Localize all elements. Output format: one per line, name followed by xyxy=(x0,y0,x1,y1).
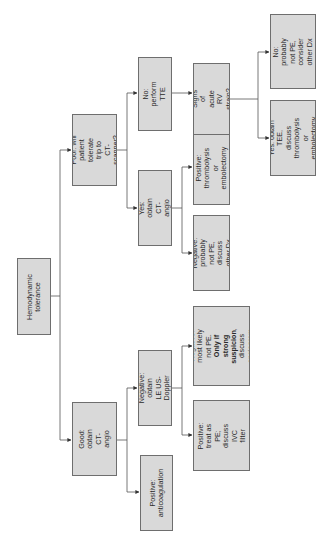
node-label: Negative: most likely not PE. Only if st… xyxy=(193,328,250,364)
node-label: No: probably not PE, consider other Dx xyxy=(272,38,314,66)
node-positive-anticoagulation: Positive: anticoagulation xyxy=(140,455,173,531)
node-label: Positive: treat as PE; discuss IVC filte… xyxy=(196,422,246,450)
node-rv-yes: Yes: obtain TEE, discuss thrombolysis or… xyxy=(270,100,316,176)
node-positive-thrombolysis: Positive: thrombolysis or embolectomy xyxy=(193,130,230,205)
node-no-perform-tte: No: perform TTE xyxy=(138,57,172,131)
node-label: Negative: probably not PE, discuss other… xyxy=(193,238,230,268)
node-negative-le-us-doppler: Negative: obtain LE US-Doppler xyxy=(138,350,172,426)
label-emphasis: Only if strong suspicion xyxy=(212,330,238,364)
node-rv-no: No: probably not PE, consider other Dx xyxy=(270,14,316,89)
node-poor-tolerance: Poor: will patient tolerate trip to CT- … xyxy=(72,114,117,186)
node-label: Negative: obtain LE US-Doppler xyxy=(138,373,172,403)
node-yes-obtain-ct-angio: Yes: obtain CT- angio xyxy=(138,170,172,246)
label-part: Negative: most likely not PE. xyxy=(193,329,213,363)
node-rv-strain: Signs of acute RV strain? xyxy=(193,63,230,135)
node-doppler-positive: Positive: treat as PE; discuss IVC filte… xyxy=(193,400,250,471)
node-label: Yes: obtain TEE, discuss thrombolysis or… xyxy=(270,117,316,160)
node-doppler-negative: Negative: most likely not PE. Only if st… xyxy=(193,306,250,386)
node-label: Yes: obtain CT- angio xyxy=(138,198,172,218)
node-label: No: perform TTE xyxy=(142,82,167,107)
node-negative-probably-not-pe: Negative: probably not PE, discuss other… xyxy=(193,215,230,291)
node-label: Positive: thrombolysis or embolectomy xyxy=(195,146,229,189)
node-good-tolerance: Good: obtain CT-angio xyxy=(72,402,117,476)
node-hemodynamic-tolerance: Hemodynamic tolerance xyxy=(17,258,51,335)
node-label: Signs of acute RV strain? xyxy=(193,88,230,110)
node-label: Poor: will patient tolerate trip to CT- … xyxy=(72,135,117,165)
node-label: Positive: anticoagulation xyxy=(148,469,165,517)
node-label: Good: obtain CT-angio xyxy=(78,428,112,450)
node-label: Hemodynamic tolerance xyxy=(26,274,43,320)
